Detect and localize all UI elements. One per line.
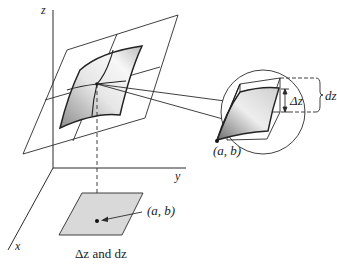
base-region: [59, 193, 143, 235]
y-axis-label: y: [175, 170, 180, 182]
z-axis-label: z: [41, 4, 46, 16]
dz-label: dz: [325, 89, 337, 102]
base-point: [95, 219, 99, 223]
x-axis-label: x: [15, 240, 20, 252]
surface-patch: [60, 46, 142, 128]
magnifier: [215, 70, 323, 154]
x-axis: [8, 168, 53, 250]
figure-caption: Δz and dz: [75, 247, 127, 260]
point-label-base: (a, b): [147, 204, 175, 217]
delta-z-label: Δz: [290, 94, 303, 107]
point-label-magnified: (a, b): [213, 144, 241, 157]
